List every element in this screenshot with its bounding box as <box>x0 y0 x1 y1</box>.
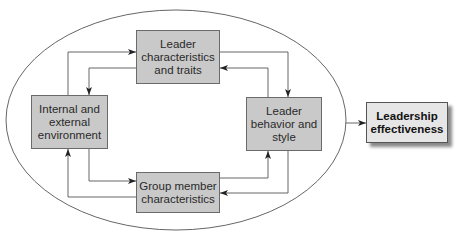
arrow-behavior-to-group <box>220 151 288 193</box>
box-leader-traits: Leader characteristics and traits <box>136 30 220 84</box>
box-leadership-effectiveness: Leadership effectiveness <box>366 102 448 143</box>
arrow-traits-to-behavior <box>220 52 288 97</box>
arrow-traits-to-environment <box>89 68 136 95</box>
arrow-environment-to-traits <box>68 52 136 95</box>
box-group-member: Group member characteristics <box>136 172 220 213</box>
arrow-environment-to-group <box>89 149 136 181</box>
box-environment: Internal and external environment <box>31 95 108 149</box>
arrow-behavior-to-traits <box>220 68 268 97</box>
arrow-group-to-environment <box>68 149 136 197</box>
arrow-group-to-behavior <box>220 151 268 178</box>
box-leader-behavior: Leader behavior and style <box>246 97 322 151</box>
